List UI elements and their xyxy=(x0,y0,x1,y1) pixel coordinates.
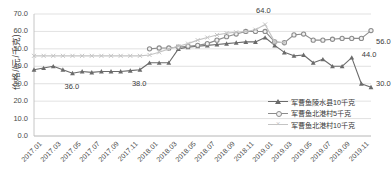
legend-label: 军曹鱼陵水县10千克 xyxy=(288,97,355,107)
data-label: 36.0 xyxy=(65,82,80,91)
legend-item-beigang-5kg[interactable]: 军曹鱼北港村5千克 xyxy=(268,108,386,120)
data-point-marker xyxy=(302,32,306,36)
data-label: 56.0 xyxy=(376,37,391,46)
data-point-marker xyxy=(263,22,267,26)
data-label: 38.0 xyxy=(132,79,147,88)
data-label: 30.0 xyxy=(376,79,391,88)
data-label: 64.0 xyxy=(256,6,271,15)
data-point-marker xyxy=(263,35,268,39)
data-point-marker xyxy=(215,38,219,42)
legend-key-x-icon: × xyxy=(268,119,288,130)
data-point-marker xyxy=(147,47,151,51)
data-point-marker xyxy=(369,28,373,32)
chart-legend: 军曹鱼陵水县10千克 军曹鱼北港村5千克 × 军曹鱼北港村10千克 xyxy=(268,96,386,131)
data-point-marker xyxy=(263,29,267,33)
data-point-marker xyxy=(359,36,363,40)
data-point-marker xyxy=(350,36,354,40)
data-point-marker xyxy=(321,38,325,42)
data-point-marker xyxy=(320,57,325,61)
data-point-marker xyxy=(292,33,296,37)
legend-item-beigang-10kg[interactable]: × 军曹鱼北港村10千克 xyxy=(268,119,386,131)
legend-key-circle-icon xyxy=(268,108,288,119)
legend-label: 军曹鱼北港村5千克 xyxy=(288,108,351,118)
legend-item-lingshui-10kg[interactable]: 军曹鱼陵水县10千克 xyxy=(268,96,386,108)
legend-key-triangle-icon xyxy=(268,96,288,107)
data-point-marker xyxy=(157,46,161,50)
data-point-marker xyxy=(349,55,354,59)
data-point-marker xyxy=(205,42,209,46)
data-point-marker xyxy=(196,43,200,47)
data-point-marker xyxy=(340,36,344,40)
data-point-marker xyxy=(330,37,334,41)
data-point-marker xyxy=(311,38,315,42)
legend-label: 军曹鱼北港村10千克 xyxy=(288,120,355,130)
data-label: 44.0 xyxy=(362,50,377,59)
